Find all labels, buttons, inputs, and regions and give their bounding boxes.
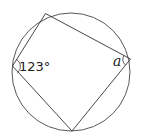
- angle-label-a: a: [113, 53, 121, 69]
- angle-label-123: 123°: [19, 59, 50, 74]
- cyclic-quadrilateral-diagram: 123° a: [0, 0, 142, 139]
- angle-arc-right: [123, 56, 126, 66]
